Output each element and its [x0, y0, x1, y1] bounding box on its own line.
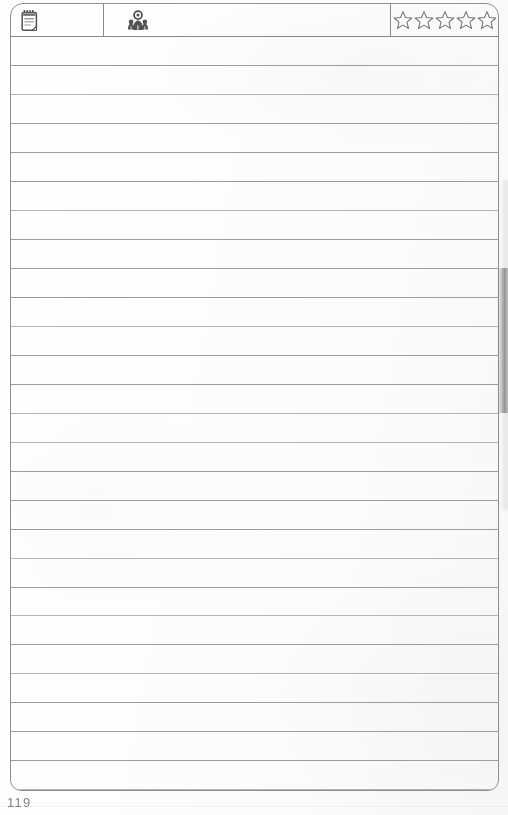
ruled-line[interactable] [11, 558, 498, 559]
ruled-line[interactable] [11, 500, 498, 501]
ruled-line[interactable] [11, 297, 498, 298]
header-rating-cell[interactable] [391, 4, 498, 36]
star-icon[interactable] [456, 10, 476, 30]
people-icon [127, 9, 149, 31]
header-title-cell[interactable] [104, 4, 391, 36]
ruled-line[interactable] [11, 94, 498, 95]
notepad-icon [21, 10, 38, 31]
ruled-line[interactable] [11, 471, 498, 472]
ruled-line[interactable] [11, 326, 498, 327]
ruled-line[interactable] [11, 65, 498, 66]
ruled-line[interactable] [11, 702, 498, 703]
ruled-line[interactable] [11, 210, 498, 211]
ruled-line[interactable] [11, 673, 498, 674]
ruled-line[interactable] [11, 181, 498, 182]
page-header-row [11, 4, 498, 37]
star-icon[interactable] [414, 10, 434, 30]
ruled-line[interactable] [11, 239, 498, 240]
ruled-line[interactable] [11, 615, 498, 616]
ruled-line[interactable] [11, 529, 498, 530]
ruled-line[interactable] [11, 587, 498, 588]
ruled-line[interactable] [11, 731, 498, 732]
star-icon[interactable] [393, 10, 413, 30]
ruled-line[interactable] [11, 152, 498, 153]
ruled-line[interactable] [11, 442, 498, 443]
ruled-line[interactable] [11, 760, 498, 761]
ruled-line[interactable] [11, 123, 498, 124]
header-date-cell[interactable] [11, 4, 104, 36]
ruled-lines-area [11, 37, 498, 790]
ruled-line[interactable] [11, 355, 498, 356]
ruled-line[interactable] [11, 644, 498, 645]
ruled-line[interactable] [11, 413, 498, 414]
star-icon[interactable] [477, 10, 497, 30]
ruled-line[interactable] [11, 268, 498, 269]
page-number: 119 [7, 795, 31, 810]
ruled-line[interactable] [11, 789, 498, 790]
journal-page-card [10, 3, 499, 791]
ruled-line[interactable] [11, 384, 498, 385]
star-icon[interactable] [435, 10, 455, 30]
scan-bottom-seam [0, 806, 508, 807]
